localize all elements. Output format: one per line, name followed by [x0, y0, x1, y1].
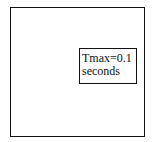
tmax-unit-text: seconds — [82, 65, 136, 78]
tmax-label-box: Tmax=0.1 seconds — [79, 48, 137, 84]
